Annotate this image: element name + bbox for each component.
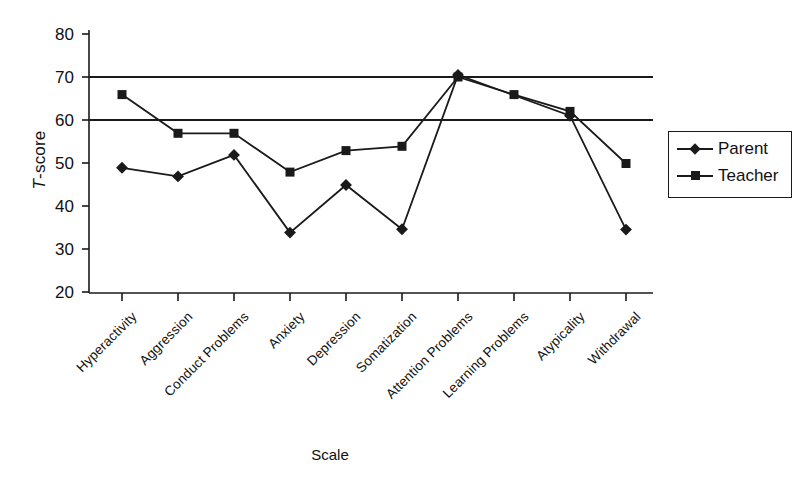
y-tick-label-80: 80 <box>40 26 74 43</box>
series-teacher <box>118 73 631 177</box>
y-tick-label-30: 30 <box>40 241 74 258</box>
chart-legend: Parent Teacher <box>668 131 792 198</box>
data-point-marker <box>398 142 407 151</box>
square-marker-icon <box>677 169 713 183</box>
axis-lines <box>89 30 653 293</box>
y-tick-label-70: 70 <box>40 69 74 86</box>
data-point-marker <box>622 159 631 168</box>
x-axis-title: Scale <box>0 446 660 463</box>
y-tick-label-50: 50 <box>40 155 74 172</box>
legend-item-teacher: Teacher <box>677 164 778 188</box>
y-axis-ticks <box>82 34 89 292</box>
data-point-marker <box>174 129 183 138</box>
y-tick-label-20: 20 <box>40 284 74 301</box>
data-point-marker <box>286 168 295 177</box>
data-point-marker-group <box>116 69 632 239</box>
diamond-marker-icon <box>677 142 713 156</box>
y-axis-title-italic: T <box>30 179 49 190</box>
data-point-marker <box>230 129 239 138</box>
legend-label-parent: Parent <box>718 140 768 158</box>
legend-item-parent: Parent <box>677 137 768 161</box>
data-point-marker <box>342 146 351 155</box>
y-tick-label-40: 40 <box>40 198 74 215</box>
y-tick-label-60: 60 <box>40 112 74 129</box>
legend-label-teacher: Teacher <box>718 167 778 185</box>
chart-plot-area <box>0 0 799 484</box>
chart-container: T-score 80 70 60 50 40 30 20 Hyperactivi… <box>0 0 799 484</box>
x-axis-ticks <box>122 293 626 301</box>
series-parent <box>116 69 632 239</box>
data-point-marker <box>118 90 127 99</box>
